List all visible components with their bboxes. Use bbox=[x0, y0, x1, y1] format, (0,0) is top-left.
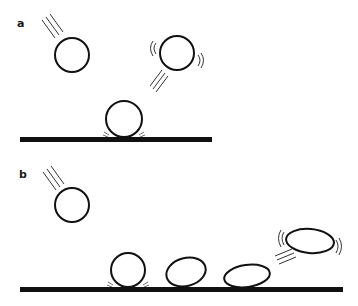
ball-b-contact bbox=[107, 253, 149, 287]
vibration-arcs-icon bbox=[151, 41, 204, 68]
motion-lines-icon bbox=[150, 70, 168, 92]
bouncing-ball-diagram: a bbox=[0, 0, 358, 306]
ground-b bbox=[20, 287, 343, 292]
panel-label-b: b bbox=[19, 168, 27, 181]
motion-lines-icon bbox=[43, 166, 64, 190]
ball-a-rebound bbox=[150, 36, 204, 92]
ball-b-falling bbox=[43, 166, 89, 222]
motion-lines-icon bbox=[42, 14, 63, 38]
ball-a-falling bbox=[42, 14, 89, 72]
ground-a bbox=[20, 137, 212, 142]
motion-lines-icon bbox=[275, 249, 296, 264]
ball-circle bbox=[111, 253, 145, 287]
ball-a-contact bbox=[103, 101, 145, 137]
panel-a: a bbox=[17, 14, 212, 142]
panel-label-a: a bbox=[17, 17, 24, 30]
ball-circle bbox=[160, 36, 194, 70]
ball-b-deforming bbox=[163, 253, 209, 290]
panel-b: b bbox=[19, 166, 343, 292]
ball-b-rebound bbox=[275, 227, 342, 264]
ball-circle bbox=[55, 38, 89, 72]
ball-ellipse bbox=[285, 227, 335, 255]
ball-b-flattened bbox=[223, 262, 272, 290]
ball-circle bbox=[55, 188, 89, 222]
ball-circle bbox=[106, 101, 142, 137]
